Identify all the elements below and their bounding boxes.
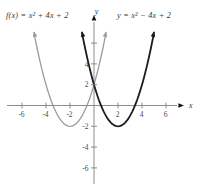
x-tick-label--2: -2 (66, 110, 72, 119)
x-tick-label-4: 4 (140, 110, 144, 119)
graph-canvas: xy-6-4-224642-2-4-6 (0, 0, 197, 193)
y-tick-label--6: -6 (82, 164, 88, 173)
parabola-translation-figure: xy-6-4-224642-2-4-6 f(x) = x² + 4x + 2 y… (0, 0, 197, 193)
x-tick-label--6: -6 (18, 110, 24, 119)
x-tick-label-6: 6 (164, 110, 168, 119)
x-tick-label-2: 2 (116, 110, 120, 119)
x-axis-arrowhead (178, 103, 184, 108)
y-tick-label-4: 4 (85, 60, 89, 69)
parabola-0-left-arrowhead (33, 31, 38, 37)
y-axis-label: y (94, 7, 99, 16)
f-equation-label: f(x) = x² + 4x + 2 (6, 11, 69, 20)
x-axis-label: x (188, 101, 193, 110)
parabola-0-right-arrowhead (103, 31, 108, 37)
y-tick-label-2: 2 (85, 80, 89, 89)
y-tick-label--2: -2 (82, 122, 88, 131)
y-tick-label--4: -4 (82, 143, 88, 152)
y-equation-label: y = x² − 4x + 2 (117, 11, 171, 20)
x-tick-label--4: -4 (42, 110, 48, 119)
